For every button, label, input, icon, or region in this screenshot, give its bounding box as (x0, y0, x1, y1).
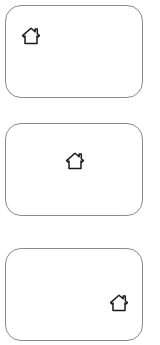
panel-card[interactable] (5, 5, 143, 98)
panel-card[interactable] (5, 123, 143, 216)
home-icon[interactable] (21, 27, 41, 45)
panel-stack (0, 0, 160, 345)
home-icon[interactable] (65, 152, 85, 170)
panel-card[interactable] (5, 248, 143, 341)
home-icon[interactable] (109, 294, 129, 312)
